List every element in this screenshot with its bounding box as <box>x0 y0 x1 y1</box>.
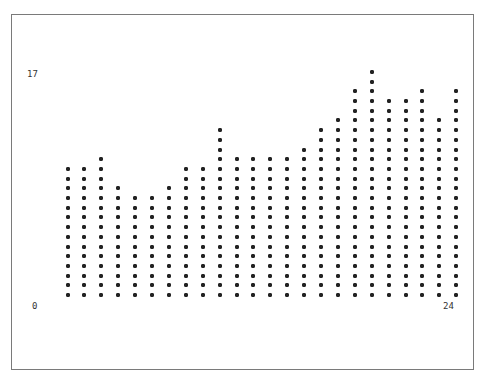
asterisk-marker-icon <box>82 167 86 171</box>
asterisk-marker-icon <box>370 157 374 161</box>
asterisk-marker-icon <box>201 196 205 200</box>
asterisk-marker-icon <box>454 225 458 229</box>
asterisk-marker-icon <box>167 264 171 268</box>
asterisk-marker-icon <box>201 177 205 181</box>
asterisk-marker-icon <box>201 186 205 190</box>
asterisk-marker-icon <box>268 196 272 200</box>
asterisk-marker-icon <box>285 274 289 278</box>
asterisk-marker-icon <box>99 254 103 258</box>
asterisk-marker-icon <box>302 245 306 249</box>
asterisk-marker-icon <box>302 167 306 171</box>
asterisk-marker-icon <box>420 157 424 161</box>
asterisk-marker-icon <box>370 109 374 113</box>
asterisk-marker-icon <box>404 293 408 297</box>
asterisk-marker-icon <box>99 225 103 229</box>
asterisk-marker-icon <box>116 274 120 278</box>
asterisk-marker-icon <box>370 148 374 152</box>
asterisk-marker-icon <box>420 264 424 268</box>
asterisk-marker-icon <box>133 206 137 210</box>
asterisk-marker-icon <box>218 215 222 219</box>
asterisk-marker-icon <box>82 245 86 249</box>
asterisk-marker-icon <box>285 293 289 297</box>
asterisk-marker-icon <box>336 128 340 132</box>
asterisk-marker-icon <box>454 293 458 297</box>
asterisk-marker-icon <box>201 283 205 287</box>
asterisk-marker-icon <box>370 206 374 210</box>
asterisk-marker-icon <box>353 245 357 249</box>
asterisk-marker-icon <box>370 235 374 239</box>
asterisk-marker-icon <box>235 293 239 297</box>
asterisk-marker-icon <box>167 235 171 239</box>
asterisk-marker-icon <box>404 177 408 181</box>
asterisk-marker-icon <box>268 157 272 161</box>
asterisk-marker-icon <box>420 235 424 239</box>
asterisk-marker-icon <box>370 177 374 181</box>
asterisk-marker-icon <box>285 167 289 171</box>
asterisk-marker-icon <box>353 215 357 219</box>
asterisk-marker-icon <box>184 235 188 239</box>
asterisk-marker-icon <box>285 264 289 268</box>
asterisk-marker-icon <box>420 177 424 181</box>
asterisk-marker-icon <box>404 138 408 142</box>
asterisk-marker-icon <box>353 274 357 278</box>
asterisk-marker-icon <box>404 245 408 249</box>
asterisk-marker-icon <box>184 274 188 278</box>
asterisk-marker-icon <box>150 264 154 268</box>
asterisk-marker-icon <box>370 118 374 122</box>
asterisk-marker-icon <box>82 177 86 181</box>
asterisk-marker-icon <box>420 89 424 93</box>
asterisk-marker-icon <box>353 186 357 190</box>
asterisk-marker-icon <box>99 206 103 210</box>
asterisk-marker-icon <box>437 245 441 249</box>
asterisk-marker-icon <box>218 245 222 249</box>
asterisk-marker-icon <box>167 215 171 219</box>
asterisk-marker-icon <box>437 167 441 171</box>
asterisk-marker-icon <box>353 177 357 181</box>
asterisk-marker-icon <box>404 167 408 171</box>
asterisk-marker-icon <box>150 283 154 287</box>
asterisk-marker-icon <box>370 264 374 268</box>
asterisk-marker-icon <box>66 283 70 287</box>
asterisk-marker-icon <box>387 245 391 249</box>
asterisk-marker-icon <box>99 293 103 297</box>
asterisk-marker-icon <box>420 245 424 249</box>
asterisk-marker-icon <box>387 264 391 268</box>
asterisk-marker-icon <box>319 225 323 229</box>
asterisk-marker-icon <box>404 118 408 122</box>
asterisk-marker-icon <box>82 215 86 219</box>
asterisk-marker-icon <box>251 186 255 190</box>
asterisk-marker-icon <box>66 235 70 239</box>
asterisk-marker-icon <box>353 99 357 103</box>
asterisk-marker-icon <box>387 283 391 287</box>
asterisk-marker-icon <box>404 215 408 219</box>
asterisk-marker-icon <box>133 196 137 200</box>
asterisk-marker-icon <box>302 157 306 161</box>
asterisk-marker-icon <box>454 283 458 287</box>
asterisk-marker-icon <box>336 196 340 200</box>
asterisk-marker-icon <box>235 206 239 210</box>
asterisk-marker-icon <box>370 245 374 249</box>
asterisk-marker-icon <box>218 283 222 287</box>
asterisk-marker-icon <box>133 245 137 249</box>
asterisk-marker-icon <box>437 148 441 152</box>
asterisk-marker-icon <box>370 196 374 200</box>
asterisk-marker-icon <box>454 167 458 171</box>
asterisk-marker-icon <box>218 167 222 171</box>
asterisk-marker-icon <box>353 157 357 161</box>
asterisk-marker-icon <box>336 254 340 258</box>
asterisk-marker-icon <box>336 138 340 142</box>
asterisk-marker-icon <box>268 254 272 258</box>
asterisk-marker-icon <box>167 206 171 210</box>
asterisk-marker-icon <box>218 186 222 190</box>
asterisk-marker-icon <box>420 128 424 132</box>
asterisk-marker-icon <box>437 118 441 122</box>
asterisk-marker-icon <box>302 254 306 258</box>
asterisk-marker-icon <box>404 196 408 200</box>
asterisk-marker-icon <box>353 89 357 93</box>
asterisk-marker-icon <box>302 235 306 239</box>
asterisk-marker-icon <box>387 138 391 142</box>
asterisk-marker-icon <box>336 264 340 268</box>
asterisk-marker-icon <box>387 254 391 258</box>
asterisk-marker-icon <box>218 293 222 297</box>
asterisk-marker-icon <box>420 186 424 190</box>
